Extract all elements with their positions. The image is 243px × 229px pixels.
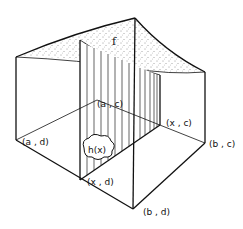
corner-label-b-c: (b , c) — [209, 139, 235, 149]
corner-label-a-c: (a , c) — [97, 99, 123, 109]
double-integral-volume-diagram: h(x) f (a , d) (a , c) (x , c) (x , d) (… — [0, 0, 243, 229]
corner-label-x-c: (x , c) — [166, 118, 192, 128]
corner-label-x-d: (x , d) — [87, 177, 114, 187]
corner-label-b-d: (b , d) — [143, 207, 170, 217]
corner-label-a-d: (a , d) — [22, 137, 49, 147]
region-h-x: h(x) — [83, 134, 114, 159]
region-label: h(x) — [88, 145, 106, 155]
